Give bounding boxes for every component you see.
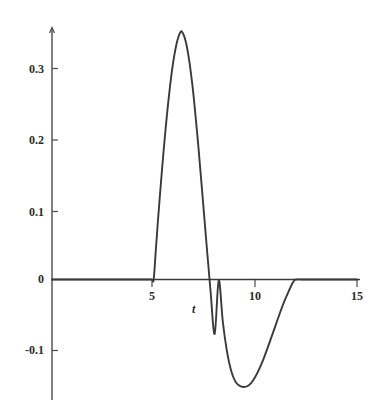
x-tick-marks (152, 280, 357, 288)
plot-area (0, 0, 378, 417)
y-tick-label-0: 0.3 (8, 62, 44, 77)
x-tick-label-1: 10 (241, 289, 269, 304)
data-series-curve (52, 31, 357, 387)
y-tick-label-4: -0.1 (2, 343, 44, 358)
y-tick-label-3: 0 (8, 272, 44, 287)
x-tick-label-2: 15 (343, 289, 371, 304)
x-tick-label-0: 5 (138, 289, 166, 304)
y-tick-marks (52, 69, 58, 351)
y-tick-label-2: 0.1 (8, 205, 44, 220)
x-axis-title: t (192, 302, 195, 317)
y-tick-label-1: 0.2 (8, 133, 44, 148)
chart-figure: 0.3 0.2 0.1 0 -0.1 5 10 15 t (0, 0, 378, 417)
